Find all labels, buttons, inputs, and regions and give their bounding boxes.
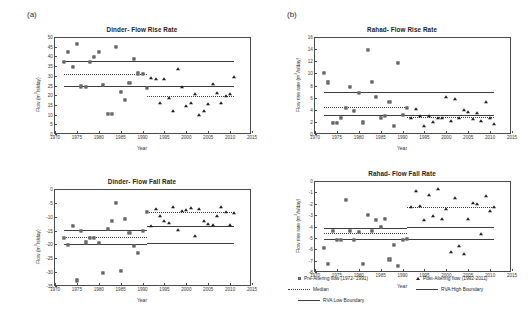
data-point-pre bbox=[383, 217, 386, 220]
x-axis-tick-label: 2015 bbox=[247, 285, 257, 292]
data-point-pre bbox=[88, 60, 91, 63]
data-point-post bbox=[184, 104, 188, 107]
data-point-pre bbox=[401, 239, 404, 242]
y-axis-tick-mark bbox=[55, 37, 57, 38]
x-axis-tick-mark bbox=[230, 131, 231, 133]
data-point-post bbox=[414, 107, 418, 110]
x-axis-tick-mark bbox=[252, 131, 253, 133]
x-axis-tick-label: 1990 bbox=[137, 133, 147, 140]
legend-label-post: Post-Altering flow (1992-2011) bbox=[423, 276, 487, 281]
plot-border-right bbox=[250, 37, 251, 133]
y-axis-tick-label: -10 bbox=[46, 214, 55, 219]
data-point-post bbox=[197, 207, 201, 210]
x-axis-tick-mark bbox=[512, 269, 513, 271]
data-point-pre bbox=[123, 217, 126, 220]
y-axis-tick-mark bbox=[315, 122, 317, 123]
data-point-pre bbox=[397, 62, 400, 65]
y-axis-tick-label: 20 bbox=[48, 93, 55, 98]
x-axis-tick-mark bbox=[468, 269, 469, 271]
y-axis-tick-label: -25 bbox=[46, 256, 55, 261]
data-point-post bbox=[479, 233, 483, 236]
x-axis-tick-mark bbox=[121, 131, 122, 133]
data-point-pre bbox=[137, 72, 140, 75]
x-axis-tick-mark bbox=[230, 283, 231, 285]
data-point-pre bbox=[97, 50, 100, 53]
data-point-post bbox=[462, 252, 466, 255]
plot-border-top bbox=[315, 181, 511, 182]
data-point-pre bbox=[84, 85, 87, 88]
data-point-pre bbox=[327, 262, 330, 265]
x-axis-label: Year bbox=[28, 297, 256, 303]
x-axis-tick-label: 2000 bbox=[181, 285, 191, 292]
x-axis-tick-mark bbox=[446, 131, 447, 133]
legend-item-post: Post-Altering flow (1992-2011) bbox=[416, 276, 487, 281]
y-axis-tick-label: 40 bbox=[48, 54, 55, 59]
data-point-pre bbox=[353, 109, 356, 112]
x-axis-tick-mark bbox=[490, 131, 491, 133]
y-axis-tick-mark bbox=[55, 105, 57, 106]
data-point-post bbox=[436, 116, 440, 119]
data-point-pre bbox=[405, 106, 408, 109]
x-axis-tick-mark bbox=[315, 269, 316, 271]
x-axis-tick-label: 1970 bbox=[310, 133, 320, 140]
data-point-pre bbox=[80, 85, 83, 88]
x-axis-tick-label: 1995 bbox=[159, 133, 169, 140]
x-axis-tick-label: 2010 bbox=[225, 285, 235, 292]
x-axis-tick-label: 2015 bbox=[507, 133, 517, 140]
data-point-post bbox=[158, 214, 162, 217]
data-point-pre bbox=[110, 113, 113, 116]
data-point-pre bbox=[119, 269, 122, 272]
data-point-pre bbox=[123, 98, 126, 101]
data-point-pre bbox=[366, 214, 369, 217]
data-point-post bbox=[444, 95, 448, 98]
data-point-pre bbox=[115, 202, 118, 205]
data-point-post bbox=[215, 92, 219, 95]
data-point-pre bbox=[93, 236, 96, 239]
y-axis-tick-label: 45 bbox=[48, 44, 55, 49]
data-point-post bbox=[154, 207, 158, 210]
x-axis-tick-mark bbox=[424, 131, 425, 133]
data-point-post bbox=[475, 111, 479, 114]
x-axis-tick-mark bbox=[359, 131, 360, 133]
plot-area: 0246810121416197019751980198519901995200… bbox=[314, 37, 511, 134]
data-point-pre bbox=[97, 241, 100, 244]
median-line-post bbox=[147, 212, 235, 213]
data-point-post bbox=[219, 205, 223, 208]
plot-border-right bbox=[510, 37, 511, 133]
x-axis-tick-mark bbox=[164, 131, 165, 133]
plot-area: 0-5-10-15-20-25-30-351970197519801985199… bbox=[54, 189, 251, 286]
data-point-post bbox=[158, 101, 162, 104]
data-point-pre bbox=[102, 272, 105, 275]
data-point-post bbox=[484, 101, 488, 104]
x-axis-tick-mark bbox=[403, 131, 404, 133]
rva-high-line-post bbox=[147, 61, 235, 62]
data-point-post bbox=[206, 102, 210, 105]
plot-area: 0510152025303540455019701975198019851990… bbox=[54, 37, 251, 134]
data-point-pre bbox=[145, 210, 148, 213]
x-axis-tick-mark bbox=[403, 269, 404, 271]
x-axis-tick-label: 1985 bbox=[376, 133, 386, 140]
data-point-pre bbox=[71, 225, 74, 228]
x-axis-tick-mark bbox=[77, 283, 78, 285]
data-point-pre bbox=[357, 231, 360, 234]
square-marker-icon bbox=[298, 277, 301, 280]
x-axis-tick-label: 2000 bbox=[441, 133, 451, 140]
data-point-pre bbox=[357, 91, 360, 94]
data-point-pre bbox=[344, 199, 347, 202]
data-point-pre bbox=[110, 219, 113, 222]
data-point-post bbox=[492, 205, 496, 208]
data-point-post bbox=[440, 217, 444, 220]
data-point-pre bbox=[322, 71, 325, 74]
triangle-marker-icon bbox=[416, 277, 420, 280]
x-axis-tick-mark bbox=[359, 269, 360, 271]
data-point-pre bbox=[348, 230, 351, 233]
x-axis-tick-label: 2005 bbox=[203, 285, 213, 292]
y-axis-tick-label: 15 bbox=[48, 102, 55, 107]
y-axis-tick-label: 25 bbox=[48, 83, 55, 88]
data-point-post bbox=[457, 116, 461, 119]
plot-border-right bbox=[250, 189, 251, 285]
x-axis-tick-label: 1985 bbox=[116, 133, 126, 140]
legend-label-median: Median bbox=[313, 287, 329, 292]
rva-low-line-post bbox=[147, 86, 235, 87]
median-line-post bbox=[407, 117, 495, 118]
